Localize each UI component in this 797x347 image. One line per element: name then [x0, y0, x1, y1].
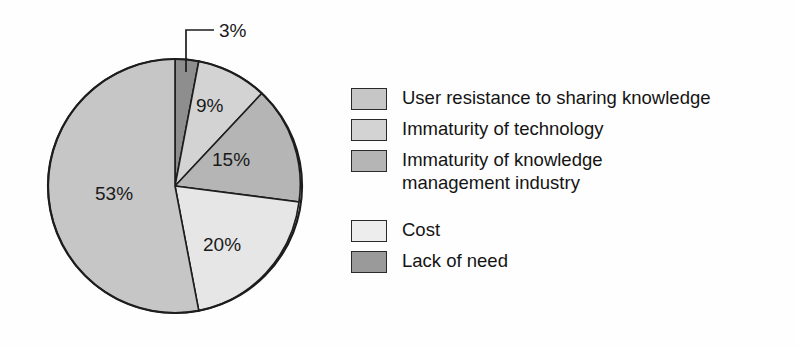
pie-value-label-3: 3% — [219, 20, 247, 41]
legend-item-lack-of-need[interactable]: Lack of need — [351, 249, 781, 273]
pie-chart-graphic: 3% 9% 15% 20% 53% — [0, 0, 340, 347]
legend-label-lack-of-need: Lack of need — [402, 249, 508, 272]
pie-value-label-20: 20% — [203, 234, 241, 255]
legend-label-cost: Cost — [402, 218, 440, 241]
legend-label-immaturity-km-industry: Immaturity of knowledge management indus… — [402, 148, 603, 194]
legend-swatch-user-resistance — [351, 88, 387, 110]
legend-swatch-lack-of-need — [351, 251, 387, 273]
pie-value-label-9: 9% — [196, 95, 224, 116]
legend-item-user-resistance[interactable]: User resistance to sharing knowledge — [351, 86, 781, 110]
legend-swatch-cost — [351, 220, 387, 242]
pie-value-label-53: 53% — [95, 183, 133, 204]
legend-item-immaturity-km-industry[interactable]: Immaturity of knowledge management indus… — [351, 148, 781, 194]
pie-chart-figure: 3% 9% 15% 20% 53% User resistance to sha… — [0, 0, 797, 347]
pie-value-label-15: 15% — [212, 149, 250, 170]
legend-item-immaturity-technology[interactable]: Immaturity of technology — [351, 117, 781, 141]
legend-label-immaturity-technology: Immaturity of technology — [402, 117, 604, 140]
chart-legend: User resistance to sharing knowledge Imm… — [351, 86, 781, 280]
legend-swatch-immaturity-km-industry — [351, 150, 387, 172]
legend-item-cost[interactable]: Cost — [351, 218, 781, 242]
legend-label-user-resistance: User resistance to sharing knowledge — [402, 86, 711, 109]
legend-swatch-immaturity-technology — [351, 119, 387, 141]
